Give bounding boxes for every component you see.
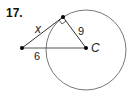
tangent-point (61, 15, 65, 19)
tangent-segment (22, 17, 63, 48)
label-x: x (34, 22, 42, 36)
center-point (84, 46, 88, 50)
geometry-diagram: x 9 6 C (0, 0, 135, 91)
external-point (20, 46, 24, 50)
label-6: 6 (34, 50, 40, 62)
right-angle-marker (59, 20, 66, 24)
label-c: C (91, 41, 100, 55)
label-9: 9 (78, 25, 84, 37)
